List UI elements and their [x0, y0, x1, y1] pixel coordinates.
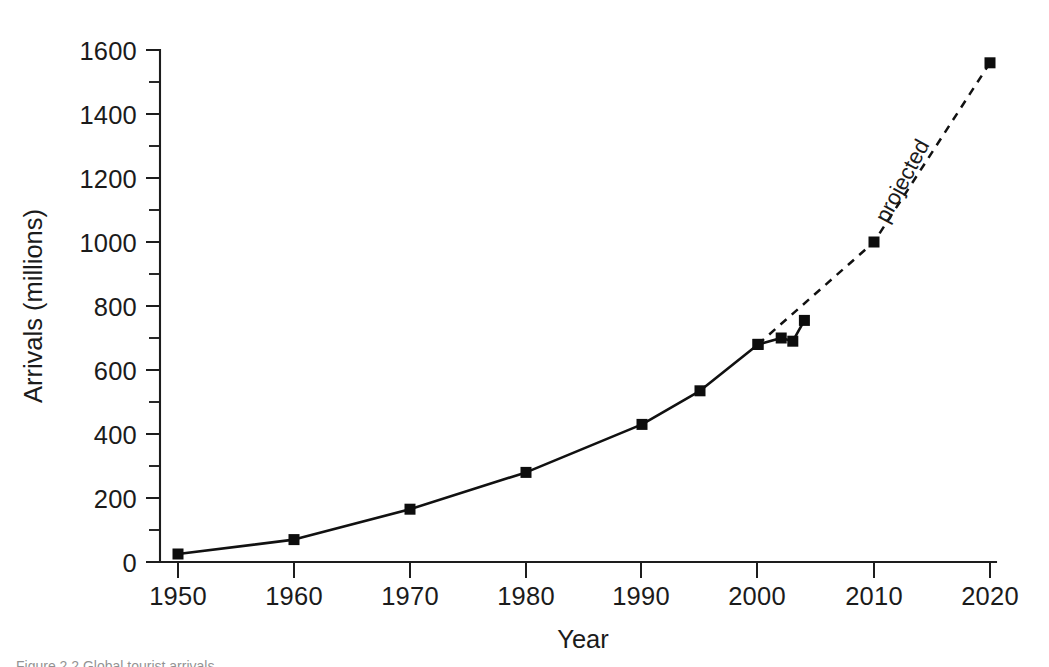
data-point-marker [695, 385, 706, 396]
x-axis-title: Year [557, 625, 609, 653]
y-tick-label: 800 [94, 293, 137, 321]
x-axis-tick-labels: 1950 1960 1970 1980 1990 2000 2010 2020 [149, 582, 1019, 610]
x-tick-label: 1950 [149, 582, 207, 610]
figure-caption: Figure 2.2 Global tourist arrivals [16, 653, 716, 667]
chart-figure: 1600 1400 1200 1000 800 600 400 200 0 19… [0, 0, 1049, 667]
y-tick-label: 200 [94, 485, 137, 513]
data-point-marker [799, 315, 810, 326]
series-markers-actual [173, 315, 810, 560]
x-tick-label: 1990 [612, 582, 670, 610]
y-tick-label: 1400 [79, 101, 137, 129]
x-tick-label: 2010 [845, 582, 903, 610]
y-axis-major-ticks [146, 50, 160, 562]
x-axis-major-ticks [178, 562, 990, 578]
projected-annotation-label: projected [870, 135, 935, 227]
data-point-marker [869, 237, 880, 248]
data-point-marker [289, 534, 300, 545]
series-line-actual [178, 320, 804, 554]
data-point-marker [985, 57, 996, 68]
y-axis-tick-labels: 1600 1400 1200 1000 800 600 400 200 0 [79, 37, 137, 577]
data-point-marker [521, 467, 532, 478]
series-line-projected [758, 63, 990, 345]
y-tick-label: 1600 [79, 37, 137, 65]
line-chart-canvas: 1600 1400 1200 1000 800 600 400 200 0 19… [0, 0, 1049, 667]
x-tick-label: 2000 [728, 582, 786, 610]
data-point-marker [776, 333, 787, 344]
y-tick-label: 1200 [79, 165, 137, 193]
data-point-marker [173, 549, 184, 560]
y-tick-label: 400 [94, 421, 137, 449]
y-tick-label: 1000 [79, 229, 137, 257]
y-tick-label: 600 [94, 357, 137, 385]
x-tick-label: 2020 [961, 582, 1019, 610]
data-point-marker [787, 336, 798, 347]
y-tick-label: 0 [123, 549, 137, 577]
y-axis-title: Arrivals (millions) [19, 209, 47, 403]
data-point-marker [753, 339, 764, 350]
x-tick-label: 1960 [265, 582, 323, 610]
x-tick-label: 1980 [497, 582, 555, 610]
x-tick-label: 1970 [381, 582, 439, 610]
data-point-marker [637, 419, 648, 430]
series-markers-projected [753, 57, 996, 350]
data-point-marker [405, 504, 416, 515]
